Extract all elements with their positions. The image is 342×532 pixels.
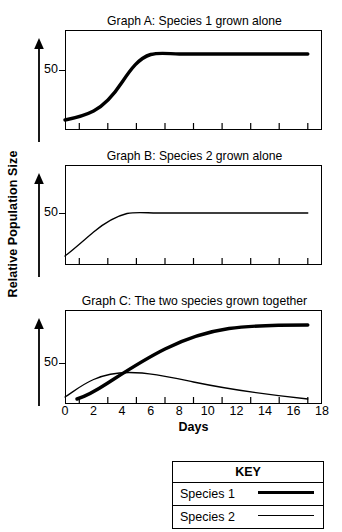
graph-a-plot-area	[65, 30, 322, 130]
graph-a-y-tick-label: 50	[36, 62, 58, 76]
y-axis-arrow-b	[30, 173, 48, 277]
graph-b-title: Graph B: Species 2 grown alone	[62, 149, 327, 163]
x-tick-16: 16	[287, 404, 301, 418]
legend-key-box: KEY Species 1 Species 2	[172, 461, 324, 529]
x-tick-6: 6	[147, 404, 154, 418]
x-tick-2: 2	[90, 404, 97, 418]
y-axis-title: Relative Population Size	[0, 0, 26, 532]
x-axis-title: Days	[65, 420, 322, 434]
x-tick-0: 0	[62, 404, 69, 418]
x-tick-4: 4	[119, 404, 126, 418]
legend-swatch-species-2	[258, 515, 314, 520]
x-tick-12: 12	[229, 404, 243, 418]
x-tick-10: 10	[201, 404, 215, 418]
legend-swatch-species-1	[258, 491, 314, 498]
legend-item-species-2: Species 2	[173, 506, 323, 528]
x-tick-14: 14	[258, 404, 272, 418]
graph-c-plot-area	[65, 310, 322, 404]
legend-label-species-1: Species 1	[180, 487, 235, 501]
legend-header: KEY	[173, 462, 323, 483]
graph-b-plot-area	[65, 165, 322, 265]
graph-c-title: Graph C: The two species grown together	[62, 294, 327, 308]
x-tick-18: 18	[315, 404, 329, 418]
legend-item-species-1: Species 1	[173, 483, 323, 506]
graph-a-title: Graph A: Species 1 grown alone	[62, 14, 327, 28]
legend-label-species-2: Species 2	[180, 510, 235, 524]
graph-b-y-tick-label: 50	[36, 205, 58, 219]
graph-c-y-tick-label: 50	[36, 355, 58, 369]
x-axis-tick-labels: 0 2 4 6 8 10 12 14 16 18	[65, 404, 322, 420]
y-axis-arrow-a	[30, 38, 48, 142]
x-tick-8: 8	[176, 404, 183, 418]
y-axis-title-label: Relative Population Size	[6, 150, 20, 297]
